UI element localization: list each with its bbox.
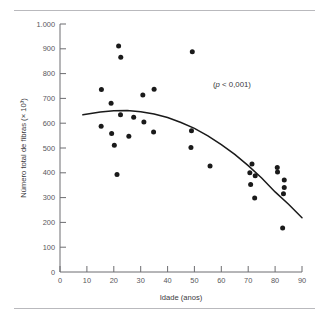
x-tick-label: 20 xyxy=(110,276,118,285)
x-tick-label: 50 xyxy=(190,276,198,285)
scatter-point xyxy=(109,101,114,106)
scatter-point xyxy=(112,143,117,148)
scatter-point xyxy=(151,129,156,134)
scatter-point xyxy=(247,170,252,175)
scatter-point xyxy=(189,128,194,133)
scatter-point xyxy=(118,55,123,60)
scatter-point xyxy=(253,173,258,178)
scatter-point xyxy=(131,115,136,120)
scatter-point xyxy=(248,182,253,187)
scatter-point xyxy=(275,170,280,175)
scatter-plot: 1.000 900 800 700 600 500 400 300 200 10… xyxy=(0,0,329,319)
y-axis-title: Número total de fibras (× 10³) xyxy=(19,98,28,198)
scatter-point xyxy=(252,196,257,201)
x-tick-label: 10 xyxy=(83,276,91,285)
scatter-point xyxy=(115,172,120,177)
y-tick-label: 400 xyxy=(43,168,55,177)
y-tick-label: 200 xyxy=(43,218,55,227)
scatter-point xyxy=(275,165,280,170)
scatter-point xyxy=(152,87,157,92)
scatter-point xyxy=(282,177,287,182)
scatter-point xyxy=(116,44,121,49)
p-value-annotation: (p < 0,001) xyxy=(213,80,251,89)
scatter-point xyxy=(281,191,286,196)
annotation-value: < 0,001) xyxy=(220,80,251,89)
x-tick-label: 70 xyxy=(244,276,252,285)
y-tick-label: 300 xyxy=(43,193,55,202)
x-tick-label: 60 xyxy=(217,276,225,285)
scatter-point xyxy=(249,162,254,167)
y-axis-tick-labels: 1.000 900 800 700 600 500 400 300 200 10… xyxy=(37,20,56,277)
x-axis-tick-labels: 0 10 20 30 40 50 60 70 80 90 xyxy=(58,276,306,285)
x-tick-label: 30 xyxy=(137,276,145,285)
x-tick-label: 40 xyxy=(163,276,171,285)
scatter-points-group xyxy=(99,44,287,231)
scatter-point xyxy=(282,185,287,190)
scatter-point xyxy=(109,131,114,136)
x-tick-label: 80 xyxy=(271,276,279,285)
y-tick-label: 900 xyxy=(43,44,55,53)
y-tick-label: 700 xyxy=(43,94,55,103)
y-tick-label: 600 xyxy=(43,119,55,128)
x-tick-label: 90 xyxy=(298,276,306,285)
scatter-point xyxy=(99,87,104,92)
scatter-point xyxy=(140,92,145,97)
scatter-point xyxy=(99,124,104,129)
x-axis-title: Idade (anos) xyxy=(160,293,203,302)
scatter-point xyxy=(126,134,131,139)
x-axis-ticks xyxy=(60,266,302,272)
y-tick-label: 100 xyxy=(43,243,55,252)
scatter-point xyxy=(141,119,146,124)
y-tick-label: 1.000 xyxy=(37,20,56,29)
scatter-point xyxy=(188,145,193,150)
trend-curve xyxy=(83,111,302,218)
scatter-point xyxy=(190,49,195,54)
scatter-point xyxy=(208,164,213,169)
x-tick-label: 0 xyxy=(58,276,62,285)
figure-container: 1.000 900 800 700 600 500 400 300 200 10… xyxy=(0,0,329,319)
y-axis-ticks xyxy=(60,24,66,247)
y-tick-label: 500 xyxy=(43,144,55,153)
y-tick-label: 0 xyxy=(51,268,55,277)
scatter-point xyxy=(118,112,123,117)
scatter-point xyxy=(280,226,285,231)
y-tick-label: 800 xyxy=(43,69,55,78)
